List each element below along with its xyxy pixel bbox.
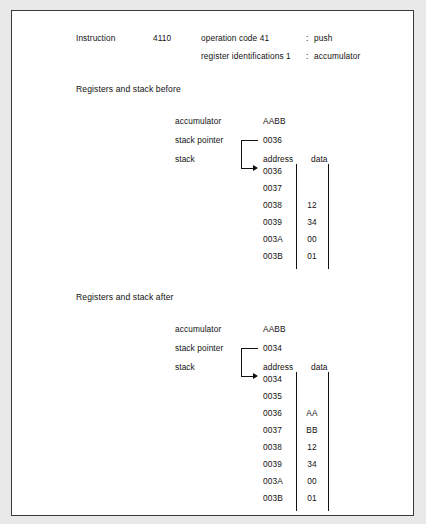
table-row: 01 — [297, 251, 327, 262]
table-row: 0037 — [263, 425, 282, 436]
column-header-data-after: data — [311, 362, 328, 373]
column-header-address-before: address — [263, 154, 293, 165]
stack-pointer-value-before: 0036 — [263, 135, 282, 146]
table-row: 003A — [263, 476, 283, 487]
stack-pointer-label-before: stack pointer — [175, 135, 223, 146]
operation-code-label: operation code 41 — [201, 33, 269, 44]
table-row: 0035 — [263, 391, 282, 402]
stack-pointer-connector-foot-after — [241, 376, 253, 377]
section-title-before: Registers and stack before — [76, 84, 181, 95]
stack-label-before: stack — [175, 154, 195, 165]
table-row: 0037 — [263, 183, 282, 194]
table-row: 003A — [263, 234, 283, 245]
table-row: BB — [297, 425, 327, 436]
table-row: 01 — [297, 493, 327, 504]
stack-pointer-connector-horizontal-before — [241, 140, 258, 141]
table-row: AA — [297, 408, 327, 419]
stack-pointer-arrow-icon-before — [253, 165, 258, 171]
data-column-right-rule-after — [328, 372, 329, 511]
register-identification-meaning: accumulator — [314, 51, 360, 62]
figure-page: Instruction 4110 operation code 41 : pus… — [11, 10, 414, 516]
table-row: 0039 — [263, 459, 282, 470]
section-title-after: Registers and stack after — [76, 292, 174, 303]
stack-pointer-value-after: 0034 — [263, 343, 282, 354]
stack-pointer-connector-vertical-before — [241, 140, 242, 169]
column-header-address-after: address — [263, 362, 293, 373]
instruction-label: Instruction — [76, 33, 115, 44]
stack-pointer-arrow-icon-after — [253, 373, 258, 379]
table-row: 00 — [297, 234, 327, 245]
data-column-right-rule-before — [328, 164, 329, 269]
table-row: 34 — [297, 217, 327, 228]
table-row: 0034 — [263, 374, 282, 385]
stack-pointer-connector-vertical-after — [241, 348, 242, 377]
table-row: 0039 — [263, 217, 282, 228]
register-identification-colon: : — [306, 51, 308, 62]
stack-pointer-label-after: stack pointer — [175, 343, 223, 354]
accumulator-value-after: AABB — [263, 324, 286, 335]
stack-pointer-connector-foot-before — [241, 168, 253, 169]
stack-label-after: stack — [175, 362, 195, 373]
operation-code-colon: : — [306, 33, 308, 44]
table-row: 12 — [297, 442, 327, 453]
table-row: 00 — [297, 476, 327, 487]
register-identification-label: register identifications 1 — [201, 51, 291, 62]
table-row: 0038 — [263, 200, 282, 211]
table-row: 12 — [297, 200, 327, 211]
table-row: 0038 — [263, 442, 282, 453]
table-row: 0036 — [263, 166, 282, 177]
accumulator-label-before: accumulator — [175, 116, 221, 127]
instruction-value: 4110 — [153, 33, 171, 44]
accumulator-value-before: AABB — [263, 116, 286, 127]
accumulator-label-after: accumulator — [175, 324, 221, 335]
table-row: 003B — [263, 251, 283, 262]
operation-code-meaning: push — [314, 33, 332, 44]
table-row: 34 — [297, 459, 327, 470]
stack-pointer-connector-horizontal-after — [241, 348, 258, 349]
table-row: 0036 — [263, 408, 282, 419]
table-row: 003B — [263, 493, 283, 504]
column-header-data-before: data — [311, 154, 328, 165]
